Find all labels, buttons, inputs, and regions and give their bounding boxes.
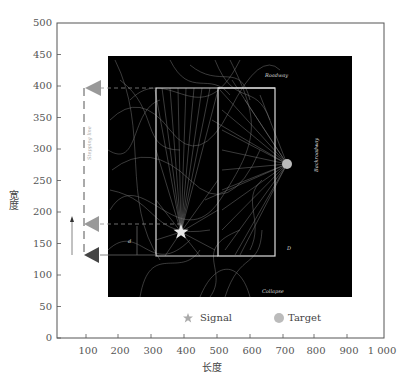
- x-tick-400: 400: [176, 345, 195, 356]
- backroadway-label: Backroadway: [313, 138, 320, 173]
- y-tick-250: 250: [33, 175, 52, 186]
- x-tick-1000: 1 000: [368, 345, 397, 356]
- y-tick-300: 300: [33, 143, 52, 154]
- x-tick-100: 100: [78, 345, 97, 356]
- x-tick-500: 500: [209, 345, 228, 356]
- x-tick-600: 600: [242, 345, 261, 356]
- d-big-label: D: [286, 245, 291, 251]
- x-tick-200: 200: [110, 345, 129, 356]
- y-tick-0: 0: [46, 332, 52, 343]
- x-tick-300: 300: [143, 345, 162, 356]
- x-tick-900: 900: [339, 345, 358, 356]
- roadway-label: Roadway: [264, 72, 288, 79]
- y-tick-500: 500: [33, 17, 52, 28]
- y-tick-400: 400: [33, 80, 52, 91]
- x-tick-700: 700: [275, 345, 294, 356]
- y-tick-150: 150: [33, 238, 52, 249]
- chart-canvas: 0 50 100 150 200 250 300 350 400 450 500…: [0, 0, 403, 386]
- y-tick-labels: 0 50 100 150 200 250 300 350 400 450 500: [33, 17, 52, 343]
- y-tick-350: 350: [33, 112, 52, 123]
- legend-signal-label: Signal: [200, 312, 232, 323]
- y-tick-100: 100: [33, 269, 52, 280]
- dark-field: [108, 56, 352, 297]
- y-axis-title: 宽度: [8, 189, 19, 211]
- d-small-label: d: [128, 238, 131, 244]
- collapse-label: Collapse: [262, 288, 284, 295]
- legend-target-label: Target: [288, 312, 321, 323]
- y-tick-200: 200: [33, 206, 52, 217]
- x-tick-labels: 100 200 300 400 500 600 700 800 900 1 00…: [78, 345, 396, 356]
- y-tick-450: 450: [33, 49, 52, 60]
- x-axis-title: 长度: [202, 361, 222, 373]
- target-marker: [282, 159, 292, 169]
- y-tick-50: 50: [39, 301, 52, 312]
- x-tick-800: 800: [306, 345, 325, 356]
- stepping-line-label: Stepping line: [86, 126, 93, 160]
- legend-target-icon: [274, 313, 284, 323]
